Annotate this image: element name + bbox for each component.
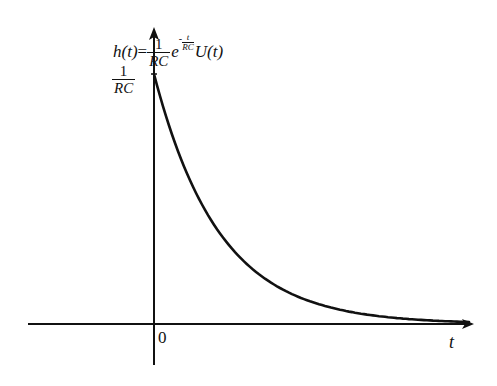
formula-exp-sign: - — [179, 33, 182, 44]
formula-coefficient: 1RC — [147, 37, 170, 69]
formula-eq: = — [138, 42, 148, 61]
decay-curve — [154, 74, 469, 322]
formula-lhs: h(t) — [113, 42, 138, 61]
y-tick-label: 1RC — [112, 64, 135, 96]
formula-base: e — [171, 42, 179, 61]
formula-exponent: tRC — [182, 33, 194, 52]
origin-label: 0 — [158, 328, 167, 348]
x-axis-label: t — [449, 332, 454, 353]
formula-step: U(t) — [195, 42, 223, 61]
plot-canvas — [0, 0, 497, 386]
